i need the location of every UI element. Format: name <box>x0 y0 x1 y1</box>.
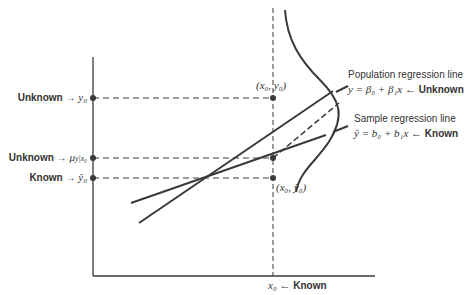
yhat-symbol: ŷ₀ <box>78 171 87 183</box>
sample-status: Known <box>425 128 458 139</box>
regression-diagram <box>0 0 467 295</box>
mu-axis-point <box>90 155 96 161</box>
y0-label: Unknown → y₀ <box>18 92 87 103</box>
yhat-axis-point <box>90 175 96 181</box>
x0-symbol: x₀ ← <box>268 279 290 291</box>
x0-y0-point <box>270 95 276 101</box>
x0-y0-label: (x₀, y₀) <box>256 80 286 91</box>
y0-arrow: → <box>66 92 76 103</box>
sample-equation: ŷ = b₀ + b₁x ← Known <box>354 128 458 139</box>
population-title: Population regression line <box>348 70 463 80</box>
mu-status: Unknown <box>9 152 54 163</box>
y0-symbol: y₀ <box>78 91 87 103</box>
population-status: Unknown <box>419 84 464 95</box>
mu-arrow: → <box>57 152 67 163</box>
y0-axis-point <box>90 95 96 101</box>
x0-label: x₀ ← Known <box>268 280 327 291</box>
mu-label: Unknown → μy|x₀ <box>9 152 87 163</box>
x0-mu-point <box>270 155 276 161</box>
population-regression-line <box>139 91 333 223</box>
population-leader <box>336 86 348 92</box>
normal-curve <box>285 10 339 192</box>
sample-formula: ŷ = b₀ + b₁x ← <box>354 127 422 139</box>
sample-title: Sample regression line <box>354 114 456 124</box>
yhat-label: Known → ŷ₀ <box>29 172 87 183</box>
x0-status: Known <box>293 280 326 291</box>
y0-status: Unknown <box>18 92 63 103</box>
yhat-arrow: → <box>66 172 76 183</box>
mu-subscript: y|x₀ <box>75 154 87 163</box>
yhat-status: Known <box>29 172 62 183</box>
population-equation: y = β₀ + β₁x ← Unknown <box>348 84 464 95</box>
population-formula: y = β₀ + β₁x ← <box>348 83 416 95</box>
x0-yhat-label: (x₀, ŷ₀) <box>276 182 306 193</box>
